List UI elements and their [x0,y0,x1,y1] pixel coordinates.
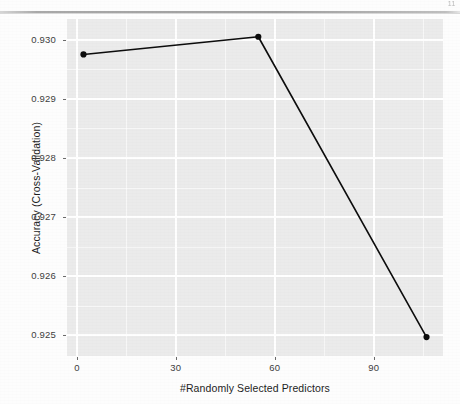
x-tick-mark [275,357,276,360]
plot-series-layer [67,19,443,356]
accuracy-line-chart: Accuracy (Cross-Validation) #Randomly Se… [0,14,460,404]
y-tick-mark [63,40,66,41]
y-tick-label: 0.929 [0,93,56,104]
x-tick-label: 90 [354,362,394,373]
x-tick-mark [374,357,375,360]
y-tick-mark [63,217,66,218]
y-tick-label: 0.928 [0,152,56,163]
x-axis-title: #Randomly Selected Predictors [67,382,443,394]
x-tick-label: 0 [57,362,97,373]
series-line-accuracy [83,37,426,337]
y-tick-label: 0.930 [0,34,56,45]
scanned-page: 11 Accuracy (Cross-Validation) #Randomly… [0,0,460,404]
x-tick-label: 30 [156,362,196,373]
x-tick-mark [176,357,177,360]
data-point [255,34,261,40]
y-tick-mark [63,158,66,159]
y-tick-mark [63,276,66,277]
data-point [423,334,429,340]
y-tick-label: 0.926 [0,270,56,281]
y-tick-mark [63,99,66,100]
page-number: 11 [448,0,456,7]
y-tick-label: 0.927 [0,211,56,222]
series-points-accuracy [80,34,429,341]
data-point [80,51,86,57]
y-tick-mark [63,335,66,336]
x-tick-label: 60 [255,362,295,373]
x-tick-mark [77,357,78,360]
y-tick-label: 0.925 [0,329,56,340]
